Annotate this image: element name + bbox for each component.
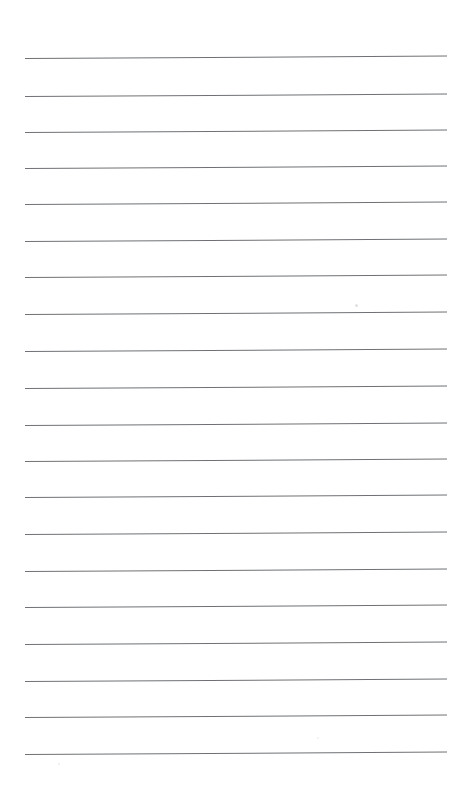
rule-line — [25, 239, 447, 242]
rule-line — [25, 569, 447, 572]
rule-line — [25, 202, 447, 205]
rule-line — [25, 56, 447, 59]
rule-line — [25, 166, 447, 169]
rule-line — [25, 94, 447, 97]
rule-line — [25, 423, 447, 426]
rule-lines-layer — [0, 0, 469, 809]
rule-line — [25, 715, 447, 718]
rule-line — [25, 349, 447, 352]
rule-line — [25, 532, 447, 535]
rule-line — [25, 495, 447, 498]
rule-line — [25, 459, 447, 462]
rule-line — [25, 679, 447, 682]
rule-line — [25, 275, 447, 278]
rule-line — [25, 642, 447, 645]
rule-line — [25, 752, 447, 755]
speck-artifact — [58, 763, 60, 765]
rule-line — [25, 130, 447, 133]
speck-artifact — [317, 737, 319, 739]
rule-line — [25, 386, 447, 389]
smudge-artifact — [355, 304, 358, 307]
ruled-paper-page: Ruled Notepaper — [0, 0, 469, 809]
rule-line — [25, 605, 447, 608]
rule-line — [25, 312, 447, 315]
